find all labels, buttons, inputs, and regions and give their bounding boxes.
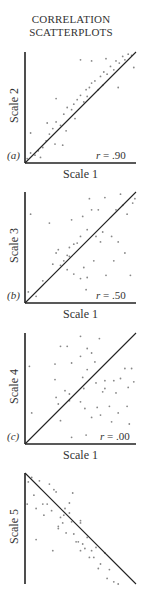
data-point (46, 122, 48, 124)
data-point (80, 522, 82, 524)
data-point (86, 96, 88, 98)
data-point (104, 380, 106, 382)
y-axis-label-b: Scale 3 (7, 226, 22, 266)
scatterplot-d (0, 421, 142, 589)
y-axis-label-c: Scale 4 (7, 367, 22, 407)
data-point (30, 213, 32, 215)
y-axis-label-d: Scale 5 (7, 507, 22, 547)
data-point (54, 363, 56, 365)
data-point (82, 216, 84, 218)
data-point (72, 492, 74, 494)
data-point (126, 213, 128, 215)
data-point (60, 517, 62, 519)
data-point (117, 412, 119, 414)
data-point (63, 113, 65, 115)
data-point (94, 80, 96, 82)
data-point (65, 130, 67, 132)
data-point (76, 99, 78, 101)
data-point (35, 539, 37, 541)
data-point (63, 514, 65, 516)
data-point (35, 508, 37, 510)
data-point (42, 503, 44, 505)
data-point (73, 273, 75, 275)
data-point (55, 98, 57, 100)
data-point (43, 514, 45, 516)
data-point (91, 417, 93, 419)
data-point (69, 256, 71, 258)
data-point (80, 236, 82, 238)
data-point (86, 277, 88, 279)
data-point (30, 132, 32, 134)
data-point (124, 59, 126, 61)
data-point (113, 260, 115, 262)
data-point (29, 365, 31, 367)
data-point (113, 380, 115, 382)
data-point (94, 361, 96, 363)
data-point (39, 480, 41, 482)
data-point (60, 124, 62, 126)
data-point (53, 489, 55, 491)
data-point (132, 202, 134, 204)
data-point (95, 547, 97, 549)
data-point (86, 537, 88, 539)
data-point (105, 274, 107, 276)
data-point (97, 209, 99, 211)
data-point (120, 378, 122, 380)
data-point (49, 483, 51, 485)
data-point (102, 391, 104, 393)
data-point (124, 252, 126, 254)
data-point (83, 267, 85, 269)
data-point (69, 247, 71, 249)
trend-line (25, 473, 136, 584)
data-point (55, 121, 57, 123)
data-point (91, 352, 93, 354)
data-point (75, 541, 77, 543)
data-point (126, 405, 128, 407)
data-point (31, 412, 33, 414)
data-point (71, 219, 73, 221)
data-point (115, 209, 117, 211)
data-point (71, 109, 73, 111)
data-point (131, 368, 133, 370)
data-point (52, 550, 54, 552)
data-point (73, 243, 75, 245)
data-point (89, 557, 91, 559)
data-point (89, 87, 91, 89)
data-point (127, 387, 129, 389)
data-point (71, 362, 73, 364)
data-point (83, 388, 85, 390)
data-point (80, 401, 82, 403)
data-point (46, 503, 48, 505)
data-point (80, 355, 82, 357)
data-point (33, 494, 35, 496)
data-point (86, 229, 88, 231)
data-point (65, 532, 67, 534)
data-point (93, 260, 95, 262)
data-point (73, 533, 75, 535)
data-point (60, 264, 62, 266)
data-point (26, 503, 28, 505)
data-point (55, 252, 57, 254)
data-point (93, 557, 95, 559)
data-point (99, 338, 101, 340)
data-point (91, 60, 93, 62)
data-point (57, 528, 59, 530)
data-point (80, 59, 82, 61)
data-point (62, 522, 64, 524)
data-point (57, 403, 59, 405)
data-point (120, 193, 122, 195)
data-point (91, 82, 93, 84)
data-point (55, 491, 57, 493)
data-point (96, 407, 98, 409)
data-point (27, 481, 29, 483)
data-point (52, 263, 54, 265)
data-point (117, 241, 119, 243)
data-point (130, 274, 132, 276)
data-point (103, 71, 105, 73)
data-point (102, 231, 104, 233)
data-point (57, 525, 59, 527)
data-point (64, 390, 66, 392)
data-point (66, 269, 68, 271)
data-point (80, 520, 82, 522)
data-point (51, 510, 53, 512)
